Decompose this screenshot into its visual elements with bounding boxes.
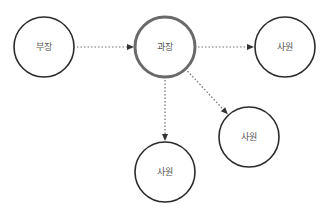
node-label: 사원 [277,42,293,52]
edge-n2-n4 [188,71,224,109]
node-n2: 과장 [135,17,195,77]
node-label: 과장 [157,42,173,52]
arrowhead-icon [221,107,228,114]
arrowhead-icon [127,44,134,50]
node-label: 사원 [241,132,257,142]
node-n3: 사원 [255,17,315,77]
node-label: 사원 [157,167,173,177]
node-n5: 사원 [135,142,195,202]
arrowhead-icon [162,134,168,141]
arrowhead-icon [247,44,254,50]
node-label: 부장 [36,42,52,52]
hierarchy-diagram: 부장과장사원사원사원 [0,0,325,215]
node-n1: 부장 [14,17,74,77]
node-n4: 사원 [219,107,279,167]
